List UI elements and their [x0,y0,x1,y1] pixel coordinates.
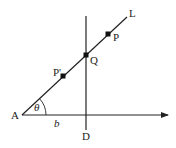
label-b: b [54,117,60,129]
point-P [106,32,111,37]
angle-theta-arc [40,99,47,115]
geometry-figure: L P Q P' A θ b D [0,0,176,148]
label-P: P [113,31,119,43]
label-D: D [82,130,90,142]
label-A: A [11,109,19,121]
label-Q: Q [90,54,98,66]
point-Q [84,53,89,58]
label-theta: θ [34,101,40,113]
label-P-prime: P' [53,66,61,78]
label-L: L [129,7,136,19]
diagram-canvas: L P Q P' A θ b D [0,0,176,148]
point-P-prime [61,74,66,79]
